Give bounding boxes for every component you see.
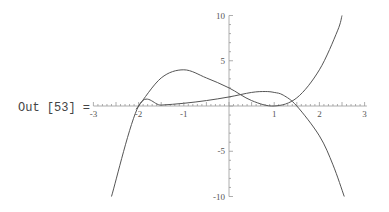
x-tick-label: 1 [272, 109, 277, 119]
x-tick-label: -2 [135, 109, 143, 119]
x-tick-label: -1 [180, 109, 188, 119]
y-tick-label: -10 [213, 192, 225, 202]
y-tick-label: 10 [216, 11, 226, 21]
y-tick-label: 5 [221, 56, 226, 66]
curve-2-line [111, 92, 344, 197]
x-tick-label: 3 [362, 109, 367, 119]
plot: -3-2-1123105-5-10 [0, 0, 389, 212]
x-tick-label: -3 [90, 109, 98, 119]
x-tick-label: 2 [317, 109, 322, 119]
y-tick-label: -5 [218, 146, 226, 156]
axes [93, 16, 366, 197]
